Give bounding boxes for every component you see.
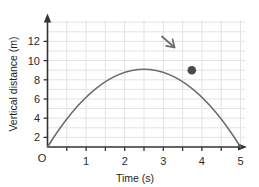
y-tick-label: 4 (34, 112, 40, 124)
chart-container: 2 4 6 8 10 12 1 2 3 4 5 O Time (s) Verti… (0, 0, 259, 187)
y-tick-label: 12 (28, 35, 40, 47)
grid-lines (48, 20, 246, 147)
y-axis-title: Vertical distance (m) (7, 36, 19, 131)
x-tick-labels: 1 2 3 4 5 (83, 155, 244, 167)
x-tick-label: 3 (160, 155, 166, 167)
x-tick-label: 2 (122, 155, 128, 167)
highlighted-data-point[interactable] (188, 66, 197, 75)
y-tick-labels: 2 4 6 8 10 12 (28, 35, 40, 143)
y-tick-label: 8 (34, 74, 40, 86)
axes (44, 14, 247, 152)
trajectory-chart: 2 4 6 8 10 12 1 2 3 4 5 O Time (s) Verti… (0, 0, 259, 187)
x-axis-title: Time (s) (116, 172, 154, 184)
x-tick-label: 4 (199, 155, 205, 167)
y-tick-label: 2 (34, 131, 40, 143)
y-axis-arrowhead (44, 14, 51, 23)
x-tick-label: 1 (83, 155, 89, 167)
direction-arrow-icon (162, 37, 175, 48)
origin-label: O (38, 152, 47, 164)
x-tick-label: 5 (237, 155, 243, 167)
y-tick-label: 10 (28, 55, 40, 67)
y-tick-label: 6 (34, 93, 40, 105)
